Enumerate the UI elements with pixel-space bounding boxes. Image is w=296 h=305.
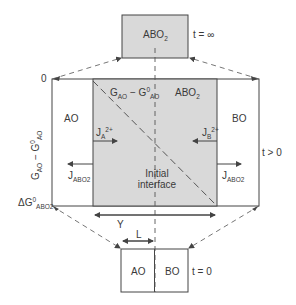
time-zero-label: t = 0: [192, 266, 212, 277]
diagram-canvas: [0, 0, 296, 305]
flux-abo2-left-label: JABO2: [68, 170, 90, 181]
bottom-bo-label: BO: [165, 266, 179, 277]
time-infinity-label: t = ∞: [193, 29, 214, 40]
gibbs-gradient-label: GAO − G0AO: [110, 87, 159, 98]
dimension-l-label: L: [136, 229, 142, 240]
top-box-phase-label: ABO2: [143, 29, 168, 40]
flux-abo2-right-label: JABO2: [222, 170, 244, 181]
phase-ao-label: AO: [64, 113, 78, 124]
phase-bo-label: BO: [232, 113, 246, 124]
dimension-y-label: Y: [117, 219, 124, 230]
time-positive-label: t > 0: [262, 147, 282, 158]
flux-b-label: JB2+: [202, 127, 219, 138]
flux-a-label: JA2+: [96, 127, 113, 138]
product-phase-label: ABO2: [175, 87, 200, 98]
y-axis-bottom-tick: ΔG0ABO2: [18, 197, 53, 208]
bottom-ao-label: AO: [131, 266, 145, 277]
y-axis-top-tick: 0: [41, 73, 47, 84]
initial-interface-label: Initialinterface: [128, 168, 186, 190]
y-axis-label: GAO − G0AO: [30, 131, 41, 180]
